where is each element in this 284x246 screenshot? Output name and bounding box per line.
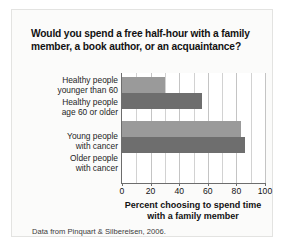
x-axis-title-line-1: Percent choosing to spend time: [107, 200, 279, 211]
source-note: Data from Pinquart & Silbereisen, 2006.: [32, 227, 166, 236]
gridline-100: [265, 73, 266, 183]
figure-card: Would you spend a free half-hour with a …: [11, 9, 273, 237]
y-axis-line: [121, 73, 122, 183]
tick-label-60: 60: [203, 186, 213, 196]
plot-area: [122, 73, 265, 183]
tick-label-0: 0: [120, 186, 125, 196]
bar-1: [122, 93, 202, 109]
tick-label-80: 80: [232, 186, 242, 196]
x-axis-tick-labels: 020406080100: [122, 186, 265, 198]
tick-label-20: 20: [146, 186, 156, 196]
category-label-young-cancer: Young people with cancer: [32, 131, 118, 152]
category-axis-labels: Healthy people younger than 60 Healthy p…: [28, 73, 118, 183]
x-axis-title: Percent choosing to spend time with a fa…: [107, 200, 279, 223]
category-label-healthy-young: Healthy people younger than 60: [32, 75, 118, 96]
category-label-older-cancer: Older people with cancer: [32, 153, 118, 174]
x-axis-title-line-2: with a family member: [107, 211, 279, 222]
bar-0: [122, 77, 165, 93]
chart-title: Would you spend a free half-hour with a …: [31, 27, 259, 53]
bar-2: [122, 121, 241, 137]
tick-label-100: 100: [258, 186, 272, 196]
gridline-90: [251, 73, 252, 183]
bar-3: [122, 137, 245, 153]
tick-label-40: 40: [174, 186, 184, 196]
category-label-healthy-older: Healthy people age 60 or older: [32, 97, 118, 118]
